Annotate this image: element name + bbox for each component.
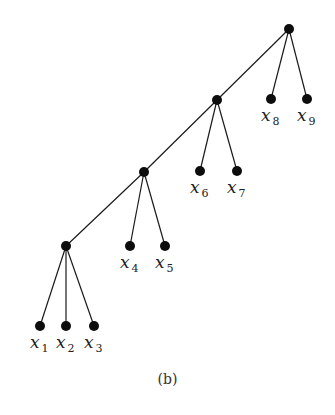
leaf-edge	[200, 100, 217, 171]
leaf-label-x7: x7	[227, 177, 246, 200]
tree-nodes	[35, 24, 312, 331]
leaf-label-x5: x5	[155, 252, 174, 275]
leaf-node-x7	[232, 166, 242, 176]
tree-edges	[40, 29, 307, 326]
leaf-label-x8: x8	[261, 105, 280, 128]
leaf-node-x1	[35, 321, 45, 331]
leaf-edge	[66, 246, 94, 326]
leaf-label-x2: x2	[56, 332, 75, 355]
leaf-edge	[144, 172, 165, 246]
leaf-edge	[271, 29, 289, 99]
internal-node	[61, 241, 71, 251]
leaf-node-x9	[302, 94, 312, 104]
leaf-node-x5	[160, 241, 170, 251]
leaf-node-x2	[61, 321, 71, 331]
leaf-node-x3	[89, 321, 99, 331]
leaf-label-x3: x3	[84, 332, 103, 355]
internal-node	[212, 95, 222, 105]
spine-edge	[217, 29, 289, 100]
leaf-edge	[40, 246, 66, 326]
leaf-edge	[289, 29, 307, 99]
leaf-node-x8	[266, 94, 276, 104]
internal-node	[284, 24, 294, 34]
leaf-labels: x1x2x3x4x5x6x7x8x9	[30, 105, 316, 355]
leaf-label-x9: x9	[297, 105, 316, 128]
leaf-node-x6	[195, 166, 205, 176]
leaf-label-x1: x1	[30, 332, 49, 355]
leaf-label-x6: x6	[190, 177, 209, 200]
internal-node	[139, 167, 149, 177]
leaf-node-x4	[125, 241, 135, 251]
tree-diagram: x1x2x3x4x5x6x7x8x9	[0, 0, 335, 415]
spine-edge	[144, 100, 217, 172]
leaf-edge	[217, 100, 237, 171]
figure-caption: (b)	[0, 371, 335, 387]
leaf-label-x4: x4	[120, 252, 139, 275]
